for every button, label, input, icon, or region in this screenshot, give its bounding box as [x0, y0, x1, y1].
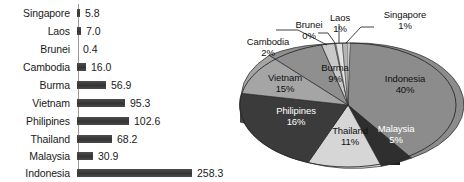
bar-value-label: 7.0: [86, 25, 101, 37]
bar-value-label: 30.9: [98, 150, 118, 162]
pie-label-philipines: Philipines 16%: [264, 105, 328, 127]
bar-category-label: Burma: [0, 79, 74, 91]
pie-label-laos: Laos 1%: [320, 12, 360, 34]
bar-fill: [77, 9, 80, 17]
bar-value-label: 0.4: [83, 43, 98, 55]
charts-figure: Singapore 5.8 Laos 7.0 Brunei 0.4 Cambod…: [0, 0, 464, 182]
bar-track: 0.4: [74, 40, 230, 57]
pie-label-name: Burma: [310, 62, 360, 73]
bar-row: Thailand 68.2: [0, 130, 230, 147]
bar-row: Singapore 5.8: [0, 4, 230, 21]
pie-label-name: Singapore: [374, 9, 436, 20]
bar-value-label: 16.0: [91, 61, 111, 73]
bar-row: Vietnam 95.3: [0, 94, 230, 111]
pie-label-percent: 15%: [255, 83, 315, 94]
bar-track: 102.6: [74, 112, 230, 129]
pie-label-name: Vietnam: [255, 72, 315, 83]
bar-category-label: Singapore: [0, 7, 74, 19]
bar-row: Malaysia 30.9: [0, 147, 230, 164]
bar-value-label: 56.9: [111, 79, 131, 91]
pie-label-name: Philipines: [264, 105, 328, 116]
bar-fill: [77, 99, 125, 107]
pie-label-percent: 1%: [320, 23, 360, 34]
pie-label-percent: 16%: [264, 116, 328, 127]
pie-label-percent: 1%: [374, 20, 436, 31]
bar-value-label: 5.8: [85, 7, 100, 19]
bar-category-label: Philipines: [0, 115, 74, 127]
bar-track: 258.3: [74, 164, 230, 181]
bar-track: 56.9: [74, 76, 230, 93]
pie-label-name: Laos: [320, 12, 360, 23]
bar-fill: [77, 27, 81, 35]
bar-row: Philipines 102.6: [0, 112, 230, 129]
bar-row: Cambodia 16.0: [0, 58, 230, 75]
bar-value-label: 95.3: [130, 97, 150, 109]
bar-category-label: Laos: [0, 25, 74, 37]
pie-label-percent: 40%: [373, 84, 437, 95]
bar-category-label: Cambodia: [0, 61, 74, 73]
bar-row: Burma 56.9: [0, 76, 230, 93]
bar-category-label: Indonesia: [0, 167, 74, 179]
pie-label-percent: 9%: [310, 73, 360, 84]
bar-track: 16.0: [74, 58, 230, 75]
bar-fill: [77, 117, 129, 125]
pie-label-singapore: Singapore 1%: [374, 9, 436, 31]
bar-chart: Singapore 5.8 Laos 7.0 Brunei 0.4 Cambod…: [0, 0, 230, 182]
bar-row: Laos 7.0: [0, 22, 230, 39]
pie-label-burma: Burma 9%: [310, 62, 360, 84]
pie-label-percent: 11%: [322, 136, 378, 147]
bar-fill: [77, 63, 86, 71]
bar-row: Indonesia 258.3: [0, 164, 230, 181]
pie-label-indonesia: Indonesia 40%: [373, 73, 437, 95]
bar-category-label: Brunei: [0, 43, 74, 55]
bar-category-label: Vietnam: [0, 97, 74, 109]
bar-fill: [77, 81, 106, 89]
bar-track: 95.3: [74, 94, 230, 111]
bar-row: Brunei 0.4: [0, 40, 230, 57]
pie-label-name: Thailand: [322, 125, 378, 136]
bar-fill: [77, 169, 192, 177]
bar-category-label: Malaysia: [0, 150, 74, 162]
bar-track: 30.9: [74, 147, 230, 164]
bar-track: 7.0: [74, 22, 230, 39]
bar-value-label: 102.6: [134, 115, 160, 127]
pie-label-name: Indonesia: [373, 73, 437, 84]
bar-value-label: 258.3: [197, 167, 223, 179]
bar-fill: [77, 135, 112, 143]
pie-label-vietnam: Vietnam 15%: [255, 72, 315, 94]
bar-fill: [77, 152, 93, 160]
pie-label-percent: 2%: [236, 47, 300, 58]
bar-track: 68.2: [74, 130, 230, 147]
bar-track: 5.8: [74, 4, 230, 21]
bar-value-label: 68.2: [117, 133, 137, 145]
bar-category-label: Thailand: [0, 133, 74, 145]
pie-label-thailand: Thailand 11%: [322, 125, 378, 147]
pie-chart: Cambodia 2% Brunei 0% Laos 1% Singapore …: [228, 0, 464, 182]
